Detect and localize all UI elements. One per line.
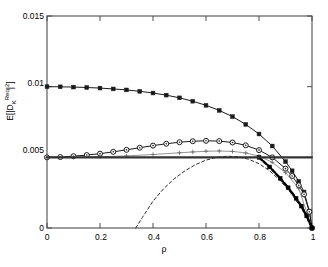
data-point-marker xyxy=(85,86,89,90)
x-tick-label-0: 0 xyxy=(35,232,59,242)
data-point-marker xyxy=(244,123,248,127)
chart-figure: E[|DKReq|2] ρ 0 0.005 0.01 0.015 0 0.2 0… xyxy=(0,0,328,267)
data-point-center xyxy=(126,149,128,151)
y-tick-label-3: 0.015 xyxy=(8,11,44,21)
data-point-center xyxy=(192,140,194,142)
x-tick-label-3: 0.6 xyxy=(195,232,219,242)
data-series-group xyxy=(45,85,315,231)
x-tick-label-2: 0.4 xyxy=(142,232,166,242)
data-point-marker xyxy=(310,226,314,230)
data-point-marker xyxy=(286,186,290,190)
data-point-center xyxy=(218,140,220,142)
data-point-marker xyxy=(151,91,155,95)
data-point-center xyxy=(112,151,114,153)
data-point-center xyxy=(303,194,305,196)
data-point-marker xyxy=(98,86,102,90)
data-point-center xyxy=(291,175,293,177)
plot-area xyxy=(0,0,328,267)
data-point-center xyxy=(205,140,207,142)
x-tick-label-5: 1 xyxy=(301,232,325,242)
data-point-marker xyxy=(231,115,235,119)
series-thin-curve-plus-marker xyxy=(45,149,314,230)
data-point-marker xyxy=(45,85,49,89)
data-point-marker xyxy=(300,204,304,208)
data-point-marker xyxy=(217,109,221,113)
data-point-center xyxy=(245,145,247,147)
data-point-center xyxy=(152,145,154,147)
data-point-marker xyxy=(270,144,274,148)
data-point-marker xyxy=(125,88,129,92)
data-point-marker xyxy=(257,132,261,136)
data-point-marker xyxy=(278,176,282,180)
data-point-center xyxy=(285,168,287,170)
data-point-marker xyxy=(290,169,294,173)
data-point-center xyxy=(309,211,311,213)
data-point-marker xyxy=(268,165,272,169)
data-point-marker xyxy=(58,85,62,89)
data-point-center xyxy=(232,142,234,144)
data-point-center xyxy=(86,154,88,156)
data-point-marker xyxy=(284,160,288,164)
y-tick-label-2: 0.01 xyxy=(10,78,44,88)
data-point-center xyxy=(139,147,141,149)
data-point-marker xyxy=(111,87,115,91)
data-point-center xyxy=(258,149,260,151)
data-point-marker xyxy=(204,103,208,107)
x-tick-label-1: 0.2 xyxy=(89,232,113,242)
data-point-center xyxy=(165,143,167,145)
y-axis-label: E[|DKReq|2] xyxy=(5,65,15,137)
data-point-center xyxy=(99,153,101,155)
data-point-marker xyxy=(178,96,182,100)
axes-frame xyxy=(47,16,312,228)
data-point-marker xyxy=(164,93,168,97)
data-point-marker xyxy=(72,85,76,89)
data-point-marker xyxy=(305,214,309,218)
data-point-center xyxy=(179,141,181,143)
data-point-center xyxy=(298,185,300,187)
data-point-marker xyxy=(294,196,298,200)
y-tick-label-1: 0.005 xyxy=(10,145,44,155)
data-point-marker xyxy=(191,99,195,103)
axis-ticks xyxy=(47,16,312,228)
x-tick-label-4: 0.8 xyxy=(248,232,272,242)
data-point-marker xyxy=(138,89,142,93)
x-axis-label: ρ xyxy=(0,243,328,254)
